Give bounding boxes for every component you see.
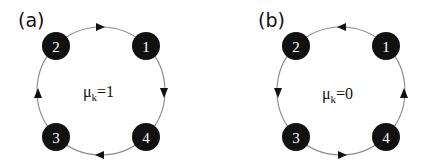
panel-b-label: (b) [258,9,285,31]
arrow-3-to-2-icon [34,88,42,98]
node-2: 2 [42,32,70,60]
panel-a: (a) 1 2 3 4 μk=1 [18,9,168,159]
panel-a-mu-label: μk=1 [83,83,114,103]
arrow-4-to-3-icon [95,151,104,159]
node-3: 3 [282,123,310,151]
node-2: 2 [282,32,310,60]
arrow-2-to-3-icon [274,88,282,98]
arrow-3-to-4-icon [338,151,347,159]
node-1: 1 [372,32,400,60]
panel-a-label: (a) [18,9,44,31]
node-3-label: 3 [292,130,300,146]
node-4-label: 4 [382,130,390,146]
node-4: 4 [132,123,160,151]
node-2-label: 2 [292,39,300,55]
node-1-label: 1 [142,39,150,55]
arrow-1-to-2-icon [337,23,346,31]
node-2-label: 2 [52,39,60,55]
node-1-label: 1 [382,39,390,55]
panel-b-mu-label: μk=0 [322,85,353,105]
node-3: 3 [42,123,70,151]
diagram-canvas: (a) 1 2 3 4 μk=1 (b) [0,0,426,168]
arrow-4-to-1-icon [400,88,408,98]
node-1: 1 [132,32,160,60]
node-3-label: 3 [52,130,60,146]
node-4-label: 4 [142,130,150,146]
arrow-1-to-4-icon [160,88,168,98]
arrow-2-to-1-icon [96,23,105,31]
panel-b: (b) 1 2 3 4 μk=0 [258,9,408,159]
node-4: 4 [372,123,400,151]
